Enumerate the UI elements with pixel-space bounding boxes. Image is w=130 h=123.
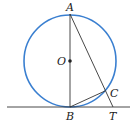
geometry-diagram: A O B C T (0, 0, 130, 123)
center-point-o (68, 59, 72, 63)
label-a: A (65, 1, 74, 14)
chord-bc (70, 91, 105, 107)
label-t: T (109, 110, 118, 123)
label-o: O (57, 55, 66, 68)
secant-at (70, 14, 113, 107)
label-c: C (110, 87, 119, 100)
label-b: B (65, 110, 74, 123)
